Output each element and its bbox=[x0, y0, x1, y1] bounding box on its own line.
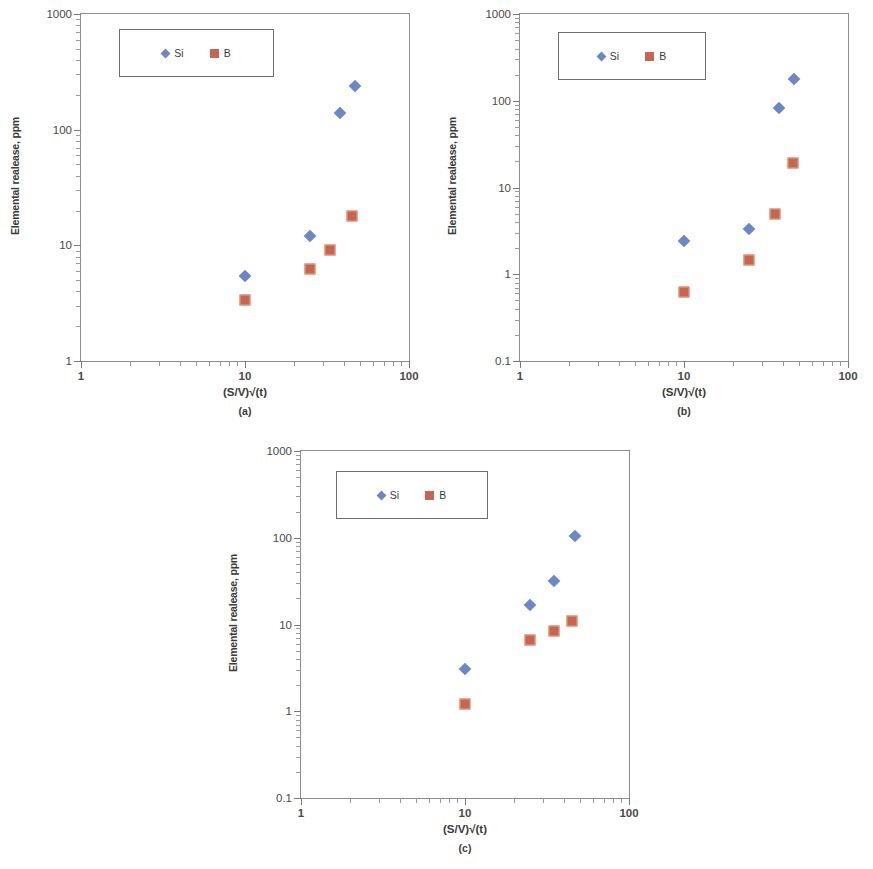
data-point-si bbox=[304, 230, 317, 243]
x-tick-minor bbox=[237, 361, 238, 366]
y-tick-label: 0.1 bbox=[276, 792, 292, 804]
legend-c: Si B bbox=[336, 471, 488, 519]
panel-caption-a: (a) bbox=[239, 405, 252, 417]
y-tick-minor bbox=[515, 293, 520, 294]
y-tick-minor bbox=[296, 572, 301, 573]
y-axis-title-a: Elemental realease, ppm bbox=[4, 0, 26, 352]
x-tick-minor bbox=[323, 361, 324, 366]
plot-area-b: Si B (S/V)√(t) (b) 0.11101001000110100 bbox=[519, 13, 849, 362]
diamond-icon bbox=[376, 490, 386, 500]
x-tick-minor bbox=[209, 361, 210, 366]
y-tick-label: 1000 bbox=[485, 8, 511, 20]
x-tick-minor bbox=[180, 361, 181, 366]
x-tick-label: 100 bbox=[838, 370, 857, 382]
y-tick-major bbox=[294, 625, 301, 626]
x-tick-minor bbox=[635, 361, 636, 366]
panel-caption-c: (c) bbox=[459, 842, 472, 854]
y-tick-minor bbox=[296, 720, 301, 721]
y-tick-minor bbox=[515, 214, 520, 215]
y-tick-minor bbox=[296, 557, 301, 558]
x-tick-minor bbox=[619, 361, 620, 366]
data-point-b bbox=[305, 264, 316, 275]
y-tick-minor bbox=[296, 542, 301, 543]
legend-label-si-c: Si bbox=[390, 489, 399, 501]
x-tick-label: 1 bbox=[298, 807, 304, 819]
x-tick-minor bbox=[350, 798, 351, 803]
legend-entry-si-b: Si bbox=[598, 50, 619, 62]
y-tick-minor bbox=[515, 27, 520, 28]
legend-entry-si-c: Si bbox=[378, 489, 399, 501]
x-tick-minor bbox=[668, 361, 669, 366]
panel-b: Elemental realease, ppm Si B (S/V)√(t) (… bbox=[437, 0, 873, 432]
y-tick-minor bbox=[296, 546, 301, 547]
y-tick-minor bbox=[296, 737, 301, 738]
y-tick-minor bbox=[76, 280, 81, 281]
y-tick-label: 0.1 bbox=[495, 355, 511, 367]
x-tick-label: 100 bbox=[619, 807, 638, 819]
y-tick-minor bbox=[296, 651, 301, 652]
x-tick-minor bbox=[580, 798, 581, 803]
y-tick-label: 100 bbox=[492, 95, 511, 107]
y-tick-minor bbox=[515, 114, 520, 115]
y-tick-minor bbox=[296, 628, 301, 629]
y-tick-minor bbox=[515, 18, 520, 19]
y-tick-minor bbox=[296, 583, 301, 584]
x-tick-minor bbox=[569, 361, 570, 366]
y-tick-minor bbox=[515, 309, 520, 310]
y-tick-major bbox=[74, 361, 81, 362]
y-tick-major bbox=[74, 245, 81, 246]
y-tick-minor bbox=[76, 25, 81, 26]
data-point-b bbox=[567, 615, 578, 626]
y-tick-minor bbox=[76, 19, 81, 20]
x-tick-major bbox=[301, 798, 302, 805]
plot-area-a: Si B (S/V)√(t) (a) 1101001000110100 bbox=[80, 13, 410, 362]
legend-label-b-c: B bbox=[439, 489, 446, 501]
y-tick-minor bbox=[296, 486, 301, 487]
y-tick-minor bbox=[515, 105, 520, 106]
data-point-b bbox=[525, 635, 536, 646]
x-tick-minor bbox=[159, 361, 160, 366]
legend-entry-b-b: B bbox=[645, 50, 666, 62]
x-tick-minor bbox=[514, 798, 515, 803]
data-point-si bbox=[743, 223, 756, 236]
y-tick-label: 1 bbox=[505, 268, 511, 280]
y-tick-minor bbox=[296, 464, 301, 465]
x-axis-title-a: (S/V)√(t) bbox=[223, 386, 267, 398]
panel-c: Elemental realease, ppm Si B (S/V)√(t) (… bbox=[218, 437, 655, 869]
y-tick-minor bbox=[296, 757, 301, 758]
data-point-si bbox=[548, 574, 561, 587]
y-tick-minor bbox=[76, 164, 81, 165]
x-tick-minor bbox=[812, 361, 813, 366]
y-axis-title-b: Elemental realease, ppm bbox=[441, 0, 463, 352]
data-point-b bbox=[787, 158, 798, 169]
x-tick-minor bbox=[840, 361, 841, 366]
y-tick-minor bbox=[296, 564, 301, 565]
y-tick-minor bbox=[515, 207, 520, 208]
y-tick-minor bbox=[296, 633, 301, 634]
y-tick-minor bbox=[515, 201, 520, 202]
y-tick-label: 100 bbox=[53, 124, 72, 136]
y-axis-title-c: Elemental realease, ppm bbox=[222, 437, 244, 789]
x-tick-major bbox=[81, 361, 82, 368]
x-tick-minor bbox=[379, 798, 380, 803]
x-tick-minor bbox=[613, 798, 614, 803]
data-point-si bbox=[773, 101, 786, 114]
legend-entry-si-a: Si bbox=[162, 47, 183, 59]
data-point-si bbox=[788, 72, 801, 85]
y-tick-label: 1000 bbox=[46, 8, 72, 20]
y-tick-major bbox=[513, 274, 520, 275]
x-tick-minor bbox=[393, 361, 394, 366]
x-axis-title-b: (S/V)√(t) bbox=[662, 386, 706, 398]
data-point-si bbox=[524, 598, 537, 611]
x-tick-minor bbox=[733, 361, 734, 366]
y-tick-minor bbox=[515, 59, 520, 60]
x-tick-major bbox=[629, 798, 630, 805]
y-tick-minor bbox=[515, 135, 520, 136]
y-tick-minor bbox=[296, 730, 301, 731]
square-icon bbox=[425, 491, 434, 500]
y-tick-minor bbox=[296, 659, 301, 660]
x-tick-minor bbox=[598, 361, 599, 366]
square-icon bbox=[645, 52, 654, 61]
y-tick-minor bbox=[515, 335, 520, 336]
x-tick-minor bbox=[196, 361, 197, 366]
